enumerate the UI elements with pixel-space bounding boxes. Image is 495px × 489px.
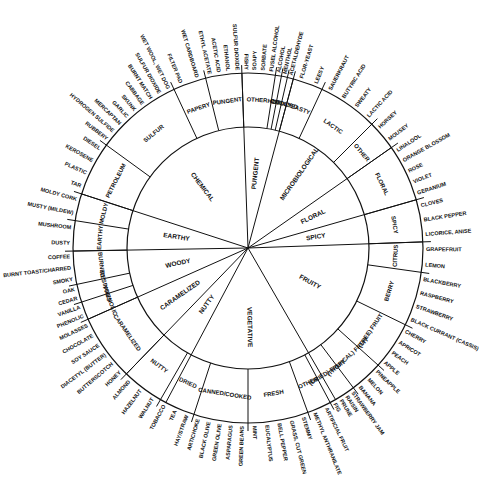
subcategory-divider (289, 362, 310, 420)
subcategory-divider (334, 119, 378, 163)
category-label: NUTTY (197, 293, 216, 315)
aroma-term: SOAPY (251, 50, 258, 70)
subcategory-divider (357, 301, 413, 328)
category-label: CHEMICAL (190, 171, 216, 203)
subcategory-label: BURNED (97, 252, 106, 279)
aroma-term: DUSTY (51, 239, 70, 245)
aroma-term: LEESY (313, 65, 326, 84)
aroma-term: BLACKBERRY (423, 276, 462, 289)
subcategory-divider (242, 65, 244, 127)
aroma-wheel: CHEMICALPETROLEUMTARPLASTICKEROSENEDIESE… (0, 0, 495, 489)
aroma-term: FISHY (243, 54, 249, 71)
category-label: FLORAL (299, 207, 326, 225)
aroma-term: OAK (62, 286, 75, 295)
category-divider (166, 248, 248, 403)
category-label: WOODY (165, 256, 192, 268)
wheel-labels: CHEMICALPETROLEUMTARPLASTICKEROSENEDIESE… (3, 24, 480, 476)
subcategory-divider (121, 335, 164, 380)
aroma-term: TOBACCO (148, 403, 167, 431)
aroma-term: FILTER PAD (166, 53, 184, 85)
aroma-term: STEMMY (301, 416, 314, 441)
subcategory-label: PAPERY (186, 101, 211, 115)
category-label: FRUITY (298, 273, 323, 291)
aroma-term: GREEN BEANS (238, 425, 245, 466)
subcategory-label: SPICY (390, 215, 399, 234)
subcategory-label: OTHER (353, 143, 372, 163)
category-label: SPICY (306, 231, 327, 241)
aroma-term: ASPARAGUS (224, 425, 233, 460)
subcategory-divider (369, 242, 431, 244)
aroma-term: DIESEL (82, 135, 102, 151)
aroma-term: PEACH (391, 350, 410, 366)
subcategory-label: NUTTY (149, 357, 169, 374)
aroma-term: SORBATE (260, 44, 268, 71)
subcategory-label: PETROLEUM (105, 162, 127, 198)
aroma-term: ROSE (407, 161, 424, 173)
subcategory-label: SULFUR (142, 123, 165, 144)
aroma-term: STRAWBERRY (415, 303, 454, 322)
aroma-term: BURNT TOAST/CHARRED (3, 265, 72, 279)
aroma-term: TEA (168, 409, 178, 422)
aroma-term: METHYL ANTHRANILATE (312, 412, 343, 476)
subcategory-label: DRIED (178, 376, 198, 389)
aroma-term: TAR (70, 179, 82, 188)
subcategory-label: CITRUS (392, 244, 399, 267)
aroma-term: VIOLET (412, 171, 433, 184)
category-label: CARAMELIZED (158, 278, 201, 311)
aroma-term: MINT (252, 426, 258, 440)
aroma-term: WET CARDBOARD (180, 29, 200, 78)
aroma-term: FLOR-YEAST (298, 43, 314, 79)
aroma-term: KEROSENE (65, 143, 95, 163)
subcategory-label: BERRY (383, 280, 395, 302)
subcategory-label: FRESH (263, 389, 284, 398)
subcategory-divider (368, 265, 429, 274)
aroma-term: COFFEE (48, 253, 71, 260)
aroma-term: SULFUR DIOXIDE (232, 24, 241, 71)
aroma-term: LEMON (425, 262, 445, 270)
subcategory-label: MOLDY (98, 202, 109, 224)
aroma-term: RASPBERRY (420, 290, 455, 305)
subcategory-divider (69, 273, 130, 286)
aroma-term: GREEN OLIVE (211, 423, 223, 461)
aroma-term: BLACK OLIVE (198, 421, 212, 459)
category-label: PUNGENT (250, 157, 260, 189)
subcategory-divider (100, 140, 150, 176)
aroma-term: SWEATY (354, 86, 373, 108)
aroma-term: ETHYL ACETATE (197, 30, 213, 75)
aroma-term: BLACK CURRANT (CASSIS) (410, 316, 480, 351)
subcategory-label: CARAMELIZED (112, 313, 142, 353)
aroma-term: LICORICE, ANISE (425, 228, 472, 237)
subcategory-label: EARTHY (96, 225, 104, 250)
aroma-term: BELL PEPPER (276, 423, 289, 462)
aroma-term: MUSHROOM (38, 221, 72, 231)
aroma-term: CHERRY (404, 328, 427, 344)
aroma-term: HORSEY (377, 109, 398, 129)
subcategory-divider (364, 198, 424, 215)
subcategory-label: OTHER (246, 96, 268, 103)
subcategory-label: FLORAL (374, 172, 390, 197)
aroma-term: SMOKY (52, 276, 73, 286)
category-label: MICROBIOLOGICAL (278, 146, 320, 201)
aroma-term: ETHANOL (222, 44, 231, 72)
aroma-term: ARTICHOKE (186, 418, 201, 451)
aroma-term: MOLDY CORK (40, 186, 78, 202)
aroma-term: MOUSEY (387, 122, 410, 141)
aroma-term: MUSTY (MILDEW) (27, 201, 74, 216)
subcategory-label: YEASTY (286, 102, 311, 116)
aroma-term: ORANGE BLOSSOM (401, 131, 451, 163)
category-label: EARTHY (163, 231, 191, 242)
aroma-term: BLACK PEPPER (423, 210, 467, 223)
aroma-term: GERANIUM (416, 181, 447, 196)
aroma-term: PLASTIC (64, 160, 88, 175)
subcategory-label: PUNGENT (212, 96, 242, 106)
subcategory-label: CANNED/COOKED (198, 387, 253, 401)
aroma-term: EUCALYPTUS (264, 425, 274, 463)
aroma-term: CLOVES (420, 197, 444, 208)
aroma-term: ALMOND (111, 379, 132, 401)
aroma-term: GRAPEFRUIT (426, 246, 462, 252)
subcategory-label: LACTIC (322, 118, 344, 136)
aroma-term: WALNUT (137, 396, 155, 420)
category-label: VEGETATIVE (246, 307, 254, 348)
